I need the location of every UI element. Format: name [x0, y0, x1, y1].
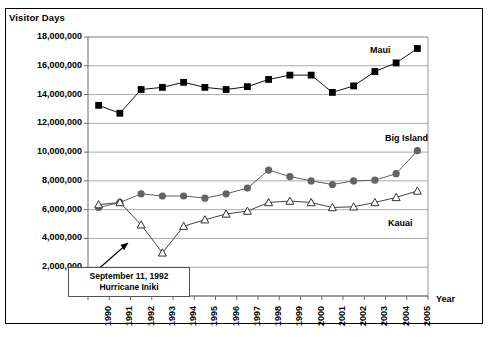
x-tick-label: 2002: [358, 306, 368, 326]
y-tick-label: 8,000,000: [0, 175, 82, 185]
annotation-box: September 11, 1992 Hurricane Iniki: [68, 267, 190, 297]
series-label-kauai: Kauai: [388, 218, 413, 228]
y-tick-label: 4,000,000: [0, 232, 82, 242]
x-tick-label: 1997: [252, 306, 262, 326]
y-tick-label: 18,000,000: [0, 31, 82, 41]
y-tick-marks: [84, 37, 88, 267]
y-tick-label: 6,000,000: [0, 204, 82, 214]
series-label-big-island: Big Island: [385, 133, 428, 143]
axis-lines: [88, 37, 428, 296]
annotation-line-1: September 11, 1992: [90, 271, 169, 282]
x-tick-label: 2000: [316, 306, 326, 326]
y-tick-label: 16,000,000: [0, 60, 82, 70]
series-label-maui: Maui: [370, 45, 391, 55]
y-tick-label: 14,000,000: [0, 89, 82, 99]
x-tick-label: 2003: [379, 306, 389, 326]
x-tick-label: 1998: [273, 306, 283, 326]
x-tick-label: 1996: [231, 306, 241, 326]
x-tick-label: 1994: [188, 306, 198, 326]
x-tick-label: 1999: [294, 306, 304, 326]
chart-figure: Visitor Days Year 2,000,0004,000,0006,00…: [0, 0, 489, 337]
x-tick-label: 1991: [124, 306, 134, 326]
x-tick-label: 1990: [103, 306, 113, 326]
x-tick-label: 2005: [422, 306, 432, 326]
annotation-line-2: Hurricane Iniki: [99, 282, 158, 293]
x-tick-label: 1993: [167, 306, 177, 326]
data-series: [95, 45, 422, 256]
x-tick-label: 2001: [337, 306, 347, 326]
x-tick-label: 1995: [209, 306, 219, 326]
y-tick-label: 10,000,000: [0, 146, 82, 156]
y-tick-label: 12,000,000: [0, 117, 82, 127]
x-tick-label: 1992: [146, 306, 156, 326]
x-tick-label: 2004: [401, 306, 411, 326]
